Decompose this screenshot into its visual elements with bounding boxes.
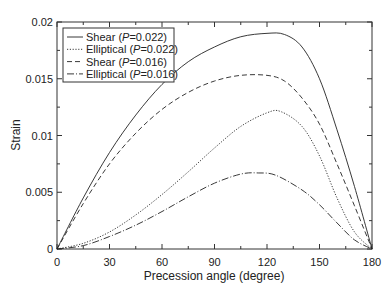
x-tick-label: 90 (208, 256, 220, 268)
y-tick-label: 0 (47, 243, 53, 255)
x-tick-label: 120 (258, 256, 276, 268)
series-line-2 (57, 110, 372, 249)
legend: Shear (P=0.022)Elliptical (P=0.022)Shear… (63, 28, 178, 82)
series-line-4 (57, 173, 372, 249)
y-tick-label: 0.01 (32, 130, 53, 142)
legend-entry: Shear (P=0.022) (86, 31, 167, 43)
y-axis-label: Strain (9, 119, 23, 150)
x-tick-label: 30 (103, 256, 115, 268)
strain-chart: 0306090120150180 00.0050.010.0150.02 Pre… (0, 0, 391, 296)
x-tick-label: 0 (54, 256, 60, 268)
x-axis-label: Precession angle (degree) (144, 269, 285, 283)
y-tick-label: 0.015 (25, 73, 53, 85)
y-tick-label: 0.005 (25, 186, 53, 198)
legend-entry: Elliptical (P=0.016) (86, 68, 178, 80)
x-tick-label: 180 (363, 256, 381, 268)
y-tick-label: 0.02 (32, 16, 53, 28)
x-tick-label: 60 (156, 256, 168, 268)
legend-entry: Elliptical (P=0.022) (86, 43, 178, 55)
legend-entry: Shear (P=0.016) (86, 56, 167, 68)
x-tick-label: 150 (310, 256, 328, 268)
